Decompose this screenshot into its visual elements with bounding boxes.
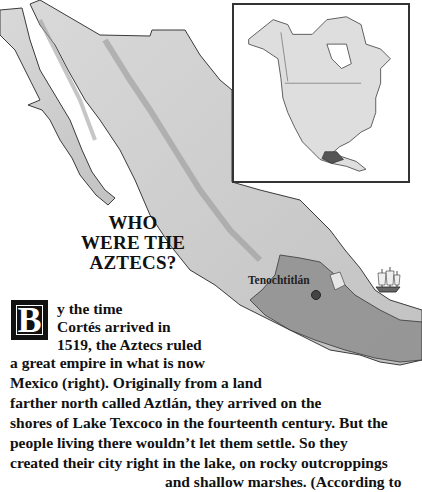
body-text-line: shores of Lake Texcoco in the fourteenth… <box>10 412 388 433</box>
page-title: WHO WERE THE AZTECS? <box>58 213 208 273</box>
body-text-line: people living there wouldn’t let them se… <box>10 432 348 453</box>
north-america-inset-map <box>232 3 410 183</box>
body-text-line: and shallow marshes. (According to <box>165 471 401 492</box>
heading-line: AZTECS? <box>58 253 208 273</box>
ship-icon <box>372 265 404 295</box>
drop-cap: B <box>11 300 48 340</box>
heading-line: WHO <box>58 213 208 233</box>
body-text-line: farther north called Aztlán, they arrive… <box>10 392 321 413</box>
drop-cap-letter: B <box>17 302 41 338</box>
city-label-tenochtitlan: Tenochtitlán <box>248 274 310 286</box>
heading-line: WERE THE <box>58 233 208 253</box>
body-text-line: created their city right in the lake, on… <box>10 452 388 473</box>
body-text-line: Mexico (right). Originally from a land <box>10 372 262 393</box>
city-marker-icon <box>311 290 321 300</box>
body-text-line: a great empire in what is now <box>10 352 205 373</box>
north-america-land <box>249 17 391 171</box>
